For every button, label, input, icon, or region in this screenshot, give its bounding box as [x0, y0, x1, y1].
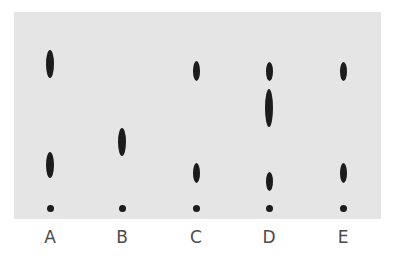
origin-dot-lane-d	[266, 205, 273, 212]
spot-lane-b-1	[118, 128, 126, 156]
spot-lane-d-3	[266, 172, 273, 191]
spot-lane-a-1	[46, 50, 54, 78]
origin-dot-lane-c	[193, 205, 200, 212]
lane-label-d: D	[254, 228, 284, 246]
spot-lane-d-1	[266, 62, 273, 81]
origin-dot-lane-b	[119, 205, 126, 212]
origin-dot-lane-e	[340, 205, 347, 212]
lane-label-a: A	[35, 228, 65, 246]
spot-lane-a-2	[46, 152, 54, 178]
origin-dot-lane-a	[47, 205, 54, 212]
lane-label-c: C	[181, 228, 211, 246]
spot-lane-e-1	[340, 62, 347, 81]
spot-lane-e-2	[340, 163, 347, 183]
spot-lane-c-2	[193, 163, 200, 183]
spot-lane-c-1	[193, 61, 200, 81]
lane-label-e: E	[328, 228, 358, 246]
lane-label-b: B	[107, 228, 137, 246]
spot-lane-d-2	[265, 89, 273, 127]
tlc-plate	[14, 12, 381, 219]
